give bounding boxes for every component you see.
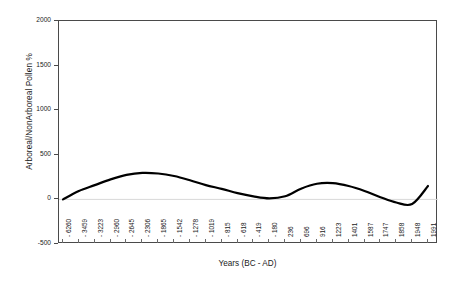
x-tick-label: - 1542 — [176, 219, 183, 237]
x-tick-mark — [252, 239, 253, 243]
x-tick-mark — [173, 239, 174, 243]
x-tick-label: 916 — [319, 226, 326, 237]
y-tick-label: 2000 — [36, 16, 51, 23]
x-axis-title: Years (BC - AD) — [58, 259, 437, 268]
y-tick-label: 0 — [47, 194, 51, 201]
x-tick-mark — [300, 239, 301, 243]
x-tick-label: - 3223 — [96, 219, 103, 237]
x-tick-mark — [316, 239, 317, 243]
x-tick-label: - 2645 — [128, 219, 135, 237]
x-tick-mark — [221, 239, 222, 243]
x-tick-label: - 1865 — [160, 219, 167, 237]
x-tick-label: 236 — [287, 226, 294, 237]
chart-figure: Arboreal/NonArboreal Pollen % 2000150010… — [0, 0, 449, 284]
x-tick-label: 1747 — [382, 223, 389, 237]
x-tick-label: - 180 — [271, 222, 278, 237]
x-tick-mark — [268, 239, 269, 243]
x-tick-label: - 2306 — [144, 219, 151, 237]
x-tick-label: 1223 — [334, 223, 341, 237]
x-tick-mark — [141, 239, 142, 243]
y-axis-ticks: 2000150010005000-500 — [0, 0, 58, 284]
x-tick-mark — [284, 239, 285, 243]
x-tick-label: 1587 — [366, 223, 373, 237]
x-tick-label: - 2960 — [112, 219, 119, 237]
x-tick-label: - 6260 — [65, 219, 72, 237]
x-tick-mark — [78, 239, 79, 243]
x-tick-mark — [110, 239, 111, 243]
x-tick-mark — [348, 239, 349, 243]
x-tick-label: - 3459 — [80, 219, 87, 237]
x-tick-mark — [125, 239, 126, 243]
series-line-arboreal-nonarboreal-pollen — [59, 21, 438, 244]
x-tick-mark — [379, 239, 380, 243]
x-tick-label: 1991 — [430, 223, 437, 237]
y-tick-label: 500 — [40, 150, 51, 157]
x-tick-label: 1948 — [414, 223, 421, 237]
x-tick-label: 1401 — [350, 223, 357, 237]
x-tick-mark — [205, 239, 206, 243]
x-tick-mark — [237, 239, 238, 243]
x-axis-ticks: - 6260- 3459- 3223- 2960- 2645- 2306- 18… — [58, 243, 437, 244]
x-tick-mark — [427, 239, 428, 243]
x-tick-mark — [332, 239, 333, 243]
x-tick-mark — [157, 239, 158, 243]
plot-area — [58, 20, 437, 243]
x-tick-label: - 1019 — [207, 219, 214, 237]
x-tick-label: - 419 — [255, 222, 262, 237]
y-tick-label: 1500 — [36, 61, 51, 68]
x-tick-mark — [364, 239, 365, 243]
x-tick-label: - 815 — [223, 222, 230, 237]
x-tick-mark — [189, 239, 190, 243]
x-tick-label: 1858 — [398, 223, 405, 237]
x-tick-mark — [62, 239, 63, 243]
x-tick-mark — [411, 239, 412, 243]
x-tick-mark — [94, 239, 95, 243]
x-tick-mark — [395, 239, 396, 243]
x-tick-label: - 1278 — [192, 219, 199, 237]
x-tick-label: 696 — [303, 226, 310, 237]
y-tick-label: 1000 — [36, 105, 51, 112]
y-tick-label: -500 — [38, 239, 51, 246]
x-tick-label: - 618 — [239, 222, 246, 237]
